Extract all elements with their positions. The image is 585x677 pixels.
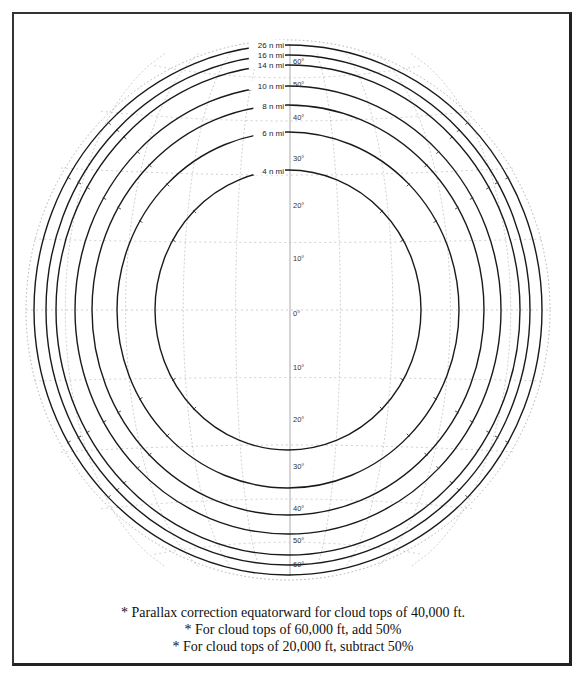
meridian-line	[378, 54, 451, 567]
latitude-label: 30°	[293, 154, 304, 163]
latitude-label: 40°	[293, 504, 304, 513]
latitude-label: 30°	[293, 462, 304, 471]
note-60000ft: * For cloud tops of 60,000 ft, add 50%	[14, 621, 572, 638]
range-ring-label: 8 n mi	[262, 102, 284, 111]
note-40000ft: * Parallax correction equatorward for cl…	[14, 604, 572, 621]
parallel-line	[34, 239, 541, 243]
range-ring-label: 14 n mi	[258, 61, 284, 70]
range-ring-label: 6 n mi	[262, 129, 284, 138]
latitude-label: 0°	[293, 309, 300, 318]
latitude-label: 60°	[293, 560, 304, 569]
parallel-line	[154, 542, 421, 554]
meridian-line	[346, 54, 393, 567]
latitude-label: 20°	[293, 415, 304, 424]
ring-labels: 4 n mi6 n mi8 n mi10 n mi14 n mi16 n mi2…	[249, 40, 285, 176]
range-ring-label: 4 n mi	[262, 167, 284, 176]
latitude-label: 50°	[293, 80, 304, 89]
parallel-line	[101, 111, 475, 121]
latitude-label: 20°	[293, 201, 304, 210]
parallax-diagram: 4 n mi6 n mi8 n mi10 n mi14 n mi16 n mi2…	[0, 0, 585, 677]
latitude-label: 60°	[293, 57, 304, 66]
lat-lon-grid	[26, 40, 550, 580]
note-20000ft: * For cloud tops of 20,000 ft, subtract …	[14, 638, 572, 655]
parallel-line	[61, 445, 515, 452]
range-ring-label: 26 n mi	[258, 41, 284, 50]
parallel-line	[154, 66, 421, 78]
latitude-label: 50°	[293, 536, 304, 545]
parallel-line	[34, 378, 541, 382]
range-ring-label: 10 n mi	[258, 82, 284, 91]
range-ring-label: 16 n mi	[258, 51, 284, 60]
latitude-labels: 60°50°40°30°20°10°0°10°20°30°40°50°60°	[293, 57, 304, 569]
latitude-label: 10°	[293, 254, 304, 263]
meridian-line	[65, 54, 165, 567]
parallel-line	[101, 499, 475, 509]
latitude-label: 40°	[293, 113, 304, 122]
parallel-line	[61, 168, 515, 175]
latitude-label: 10°	[293, 363, 304, 372]
